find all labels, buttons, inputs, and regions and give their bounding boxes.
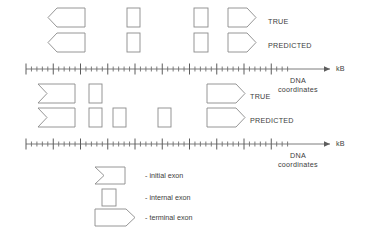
internal-exon xyxy=(194,33,208,52)
internal-exon xyxy=(194,8,208,27)
axis-bottom-unit-label: kB xyxy=(336,140,345,147)
axis-arrowhead-icon xyxy=(324,141,330,147)
legend-swatch-initial-exon-notched xyxy=(95,167,125,184)
legend-swatch-internal-exon xyxy=(102,189,116,206)
axis-bottom xyxy=(26,139,330,150)
initial-exon-notched xyxy=(38,108,75,127)
initial-exon-notched xyxy=(38,84,75,103)
axis-top-caption-line2: coordinates xyxy=(278,86,318,93)
axis-bottom-caption-line1: DNA xyxy=(290,152,306,159)
figure-canvas: TRUEPREDICTEDkBDNAcoordinatesTRUEPREDICT… xyxy=(0,0,384,230)
internal-exon xyxy=(89,108,102,127)
row-true-2-label: TRUE xyxy=(250,93,271,100)
legend-shapes-layer xyxy=(95,167,135,226)
initial-exon xyxy=(48,8,85,27)
axes-layer xyxy=(26,64,330,150)
row-true-1-label: TRUE xyxy=(268,18,289,25)
row-true-2 xyxy=(38,84,245,103)
legend-label-0: - initial exon xyxy=(145,172,183,179)
internal-exon xyxy=(127,8,140,27)
terminal-exon xyxy=(207,108,245,127)
internal-exon xyxy=(113,108,126,127)
internal-exon xyxy=(89,84,102,103)
terminal-exon xyxy=(228,33,256,52)
axis-top-unit-label: kB xyxy=(336,65,345,72)
gene-structure-diagram-svg xyxy=(0,0,384,230)
row-predicted-1 xyxy=(48,33,256,52)
axis-top xyxy=(26,64,330,75)
row-predicted-2-label: PREDICTED xyxy=(250,117,294,124)
row-predicted-2 xyxy=(38,108,245,127)
internal-exon xyxy=(158,108,171,127)
row-true-1 xyxy=(48,8,256,27)
axis-top-caption-line1: DNA xyxy=(290,77,306,84)
legend-label-2: - terminal exon xyxy=(145,214,193,221)
legend-swatch-terminal-exon xyxy=(95,209,135,226)
terminal-exon xyxy=(228,8,256,27)
axis-bottom-caption-line2: coordinates xyxy=(278,161,318,168)
initial-exon xyxy=(48,33,85,52)
row-predicted-1-label: PREDICTED xyxy=(268,42,312,49)
exon-shapes-layer xyxy=(38,8,256,127)
terminal-exon xyxy=(207,84,245,103)
internal-exon xyxy=(127,33,140,52)
legend-label-1: - internal exon xyxy=(145,194,191,201)
axis-arrowhead-icon xyxy=(324,66,330,72)
